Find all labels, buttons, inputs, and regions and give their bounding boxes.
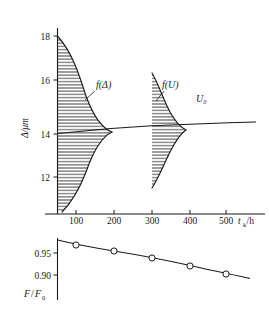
f-delta-leader (85, 91, 95, 100)
upper-y-ticks (54, 36, 58, 177)
upper-xtick-400: 400 (183, 216, 198, 226)
svg-text:/h: /h (247, 216, 255, 226)
svg-text:0: 0 (42, 294, 45, 301)
f-delta-label: f(Δ) (96, 79, 112, 91)
lower-ytick-090: 0.90 (34, 271, 51, 281)
svg-text:U₀: U₀ (196, 93, 207, 104)
upper-ytick-16: 16 (41, 76, 51, 86)
svg-text:t: t (238, 216, 241, 226)
data-point-400 (187, 263, 193, 269)
lower-ytick-095: 0.95 (34, 249, 51, 259)
lower-panel: 0.95 0.90 F / F 0 (23, 238, 250, 301)
upper-panel: 18 16 14 12 100 200 300 400 500 t k /h Δ… (20, 28, 265, 228)
upper-ytick-14: 14 (41, 130, 51, 140)
figure-svg: 18 16 14 12 100 200 300 400 500 t k /h Δ… (0, 0, 269, 316)
data-point-500 (223, 271, 229, 277)
svg-text:F: F (23, 288, 31, 299)
lower-y-ticks (54, 253, 58, 275)
f-delta-hatch-fill (55, 30, 125, 220)
f-u-label: f(U) (162, 79, 179, 91)
upper-xtick-500: 500 (219, 216, 234, 226)
upper-y-axis-title: Δ/μm (20, 118, 30, 139)
upper-x-axis-title: t k /h (238, 216, 254, 228)
upper-xtick-100: 100 (69, 216, 84, 226)
upper-ytick-12: 12 (41, 173, 51, 183)
data-point-100 (73, 242, 79, 248)
upper-x-ticks (76, 210, 226, 214)
data-point-200 (111, 248, 117, 254)
u-zero-label: U₀ (196, 93, 207, 104)
upper-ytick-18: 18 (41, 32, 51, 42)
scientific-figure: 18 16 14 12 100 200 300 400 500 t k /h Δ… (0, 0, 269, 316)
svg-text:F: F (34, 288, 42, 299)
svg-text:/: / (31, 288, 34, 299)
upper-xtick-200: 200 (107, 216, 122, 226)
lower-y-axis-title: F / F 0 (23, 288, 45, 301)
upper-xtick-300: 300 (145, 216, 160, 226)
data-point-300 (149, 255, 155, 261)
f-ratio-markers (73, 242, 229, 277)
